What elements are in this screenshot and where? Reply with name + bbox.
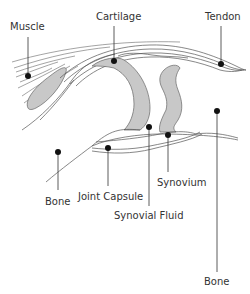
marker-bone-right bbox=[214, 108, 220, 272]
tendon-band bbox=[60, 45, 246, 86]
label-synovium: Synovium bbox=[157, 177, 207, 188]
marker-bone-left bbox=[55, 149, 61, 190]
marker-joint-capsule bbox=[105, 145, 111, 186]
synovial-joint-diagram: Muscle Cartilage Tendon Bone Joint Capsu… bbox=[0, 0, 250, 294]
cartilage-crescent-right bbox=[159, 65, 181, 132]
cartilage-crescent-left bbox=[92, 58, 150, 130]
marker-tendon bbox=[218, 26, 224, 67]
label-cartilage: Cartilage bbox=[96, 11, 141, 22]
label-muscle: Muscle bbox=[10, 21, 45, 32]
label-synovial-fluid: Synovial Fluid bbox=[114, 210, 184, 221]
label-bone-left: Bone bbox=[45, 196, 70, 207]
lower-bone-outline bbox=[46, 129, 238, 182]
marker-synovium bbox=[165, 132, 171, 172]
label-joint-capsule: Joint Capsule bbox=[77, 191, 143, 202]
label-bone-right: Bone bbox=[204, 276, 229, 287]
label-tendon: Tendon bbox=[204, 11, 241, 22]
